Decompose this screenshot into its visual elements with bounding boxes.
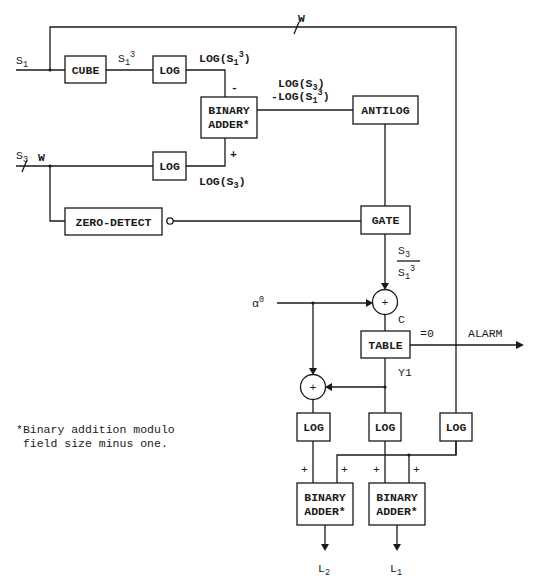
- footnote-line2: field size minus one.: [16, 437, 168, 450]
- plus-sign: +: [301, 463, 308, 476]
- block-diagram: CUBE LOG BINARY ADDER* LOG ANTILOG ZERO-…: [0, 0, 537, 586]
- zero-detect-block: ZERO-DETECT: [65, 208, 162, 235]
- alpha-label: α0: [252, 295, 264, 310]
- junction-dot: [48, 68, 51, 71]
- bus-width-label: W: [298, 12, 305, 25]
- svg-text:LOG: LOG: [159, 160, 180, 173]
- ratio-denominator: S13: [398, 264, 415, 282]
- s3-to-zero-detect-wire: [50, 166, 65, 221]
- plus-sign: +: [373, 463, 380, 476]
- s1-cubed-label: S13: [118, 50, 135, 68]
- svg-text:BINARY: BINARY: [208, 104, 250, 117]
- cube-block: CUBE: [65, 56, 106, 83]
- gate-block: GATE: [361, 206, 410, 234]
- svg-text:ZERO-DETECT: ZERO-DETECT: [76, 216, 152, 229]
- difference-label-line2: -LOG(S13): [271, 88, 330, 106]
- plus-sign: +: [230, 148, 237, 161]
- plus-sign: +: [413, 463, 420, 476]
- upper-sum-node: +: [373, 290, 398, 315]
- log-s1-block: LOG: [153, 56, 186, 83]
- svg-text:TABLE: TABLE: [368, 339, 403, 352]
- svg-text:BINARY: BINARY: [376, 491, 418, 504]
- binary-adder-l2: BINARY ADDER*: [297, 483, 353, 525]
- plus-sign: +: [341, 463, 348, 476]
- svg-text:+: +: [382, 296, 389, 309]
- lower-sum-node: +: [301, 375, 326, 400]
- inverter-bubble: [167, 218, 173, 224]
- antilog-block: ANTILOG: [353, 96, 418, 124]
- c-label: C: [398, 313, 405, 326]
- log-right-bus-wire: [337, 441, 456, 483]
- ratio-numerator: S3: [398, 244, 410, 260]
- s3-bus-width-label: W: [38, 151, 45, 164]
- svg-text:GATE: GATE: [372, 214, 400, 227]
- table-block: TABLE: [361, 331, 410, 358]
- minus-sign: -: [231, 81, 238, 94]
- binary-adder-top: BINARY ADDER*: [201, 97, 257, 138]
- svg-text:LOG: LOG: [446, 421, 467, 434]
- log-bottom-right: LOG: [440, 413, 472, 441]
- l1-label: L1: [390, 562, 402, 578]
- svg-text:LOG: LOG: [303, 421, 324, 434]
- log-bottom-mid: LOG: [369, 413, 401, 441]
- svg-text:LOG: LOG: [375, 421, 396, 434]
- svg-text:ANTILOG: ANTILOG: [361, 104, 409, 117]
- alarm-label: ALARM: [468, 327, 503, 340]
- svg-text:CUBE: CUBE: [72, 64, 100, 77]
- y1-label: Y1: [398, 366, 412, 379]
- log-s1-cubed-label: LOG(S13): [199, 50, 251, 68]
- log-s1-cubed-wire: [186, 70, 225, 97]
- svg-text:ADDER*: ADDER*: [208, 118, 249, 131]
- s1-bus-wire: [50, 27, 456, 455]
- svg-text:ADDER*: ADDER*: [376, 505, 417, 518]
- log-s3-block: LOG: [153, 152, 186, 180]
- log-bottom-left: LOG: [297, 413, 330, 441]
- log-s3-wire: [186, 138, 225, 166]
- svg-text:BINARY: BINARY: [304, 491, 346, 504]
- eq-zero-label: =0: [420, 327, 434, 340]
- binary-adder-l1: BINARY ADDER*: [369, 483, 425, 525]
- s1-label: S1: [16, 54, 28, 70]
- svg-text:+: +: [310, 381, 317, 394]
- log-s3-label: LOG(S3): [199, 175, 246, 191]
- svg-text:LOG: LOG: [159, 64, 180, 77]
- l2-label: L2: [318, 562, 330, 578]
- footnote-line1: *Binary addition modulo: [16, 423, 175, 436]
- svg-text:ADDER*: ADDER*: [304, 505, 345, 518]
- s3-label: S3: [16, 149, 28, 165]
